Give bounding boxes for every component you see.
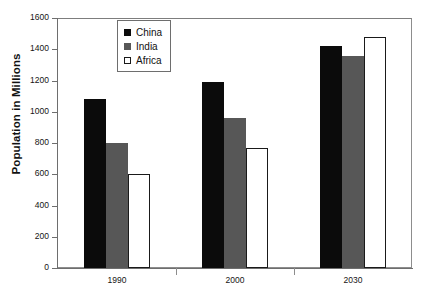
x-tick-label-1990: 1990 [77, 275, 157, 285]
y-axis-title: Population in Millions [10, 14, 22, 214]
x-tick-mark [294, 268, 295, 275]
bar-india-2000 [224, 118, 246, 268]
legend-label-india: India [136, 41, 158, 52]
x-tick-mark [176, 268, 177, 275]
y-tick-label: 400 [35, 200, 49, 210]
y-tick-label: 200 [35, 231, 49, 241]
bar-group-2000 [202, 18, 268, 268]
legend-item-africa: Africa [124, 53, 162, 67]
plot-area [58, 18, 412, 268]
bar-africa-2000 [246, 148, 268, 268]
legend-label-china: China [136, 27, 162, 38]
y-tick-label: 1000 [30, 106, 49, 116]
bar-china-2000 [202, 82, 224, 268]
y-tick-mark [52, 268, 58, 269]
y-tick-label: 1400 [30, 43, 49, 53]
chart-legend: China India Africa [117, 20, 171, 72]
y-tick-label: 0 [44, 262, 49, 272]
x-tick-label-2030: 2030 [313, 275, 393, 285]
legend-swatch-africa-icon [124, 57, 131, 64]
y-tick-label: 1600 [30, 12, 49, 22]
bar-group-2030 [320, 18, 386, 268]
bar-india-2030 [342, 56, 364, 269]
bar-chart: Population in Millions 02004006008001000… [0, 0, 424, 293]
x-axis-line [57, 268, 413, 269]
bar-india-1990 [106, 143, 128, 268]
legend-item-china: China [124, 25, 162, 39]
y-tick-label: 600 [35, 168, 49, 178]
bar-africa-2030 [364, 37, 386, 268]
legend-item-india: India [124, 39, 162, 53]
legend-label-africa: Africa [136, 55, 162, 66]
bar-africa-1990 [128, 174, 150, 268]
y-tick-label: 1200 [30, 75, 49, 85]
bar-china-2030 [320, 46, 342, 268]
y-tick-label: 800 [35, 137, 49, 147]
legend-swatch-india-icon [124, 43, 131, 50]
bar-china-1990 [84, 99, 106, 268]
legend-swatch-china-icon [124, 29, 131, 36]
x-tick-label-2000: 2000 [195, 275, 275, 285]
